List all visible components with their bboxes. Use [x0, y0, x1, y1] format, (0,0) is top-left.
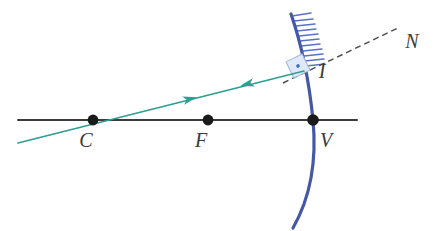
label-center-of-curvature: C: [79, 129, 93, 151]
diagram-canvas: C F V I N: [0, 0, 437, 231]
light-ray-line: [18, 71, 304, 143]
point-dot-v: [307, 114, 319, 126]
label-incidence-point: I: [318, 60, 327, 82]
point-dot-c: [88, 115, 99, 126]
point-dot-f: [203, 115, 214, 126]
label-vertex: V: [320, 129, 335, 151]
optics-ray-diagram: C F V I N: [0, 0, 437, 231]
label-focal-point: F: [194, 129, 208, 151]
label-normal: N: [404, 30, 420, 52]
